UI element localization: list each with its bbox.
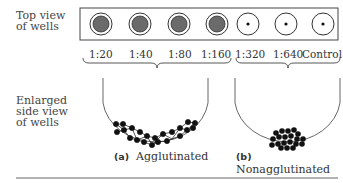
nonagglutinated-pellet [269, 127, 306, 151]
caption-nonagglutinated: (b) Nonagglutinated [236, 150, 343, 176]
caption-a-letter: (a) [114, 151, 129, 162]
caption-a-text: Agglutinated [136, 150, 208, 163]
nonagglutinated-wells [237, 13, 334, 35]
agglutinated-wells [90, 13, 228, 35]
caption-b-letter: (b) [236, 151, 251, 162]
caption-agglutinated: (a) Agglutinated [114, 150, 208, 163]
dilution-label: 1:20 [89, 48, 113, 60]
dilution-label: 1:320 [235, 48, 265, 60]
caption-b-text: Nonagglutinated [236, 163, 330, 176]
dilution-label: 1:640 [273, 48, 303, 60]
dilution-label: Control [302, 48, 342, 60]
dilution-label: 1:160 [201, 48, 231, 60]
dilution-label: 1:40 [129, 48, 153, 60]
dilution-label: 1:80 [168, 48, 192, 60]
agglutinated-lattice [113, 119, 197, 147]
